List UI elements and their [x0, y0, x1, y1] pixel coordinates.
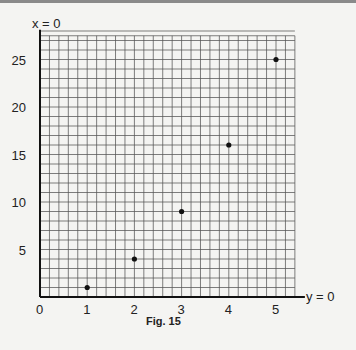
data-point: [132, 256, 137, 261]
scatter-chart: 012345510152025 x = 0 y = 0 Fig. 15: [0, 0, 356, 350]
x-tick-label: 2: [130, 302, 137, 317]
y-tick-label: 10: [12, 195, 26, 210]
data-point: [179, 209, 184, 214]
x-tick-label: 4: [225, 302, 232, 317]
y-tick-label: 15: [12, 148, 26, 163]
x-tick-label: 1: [83, 302, 90, 317]
figure-caption: Fig. 15: [146, 315, 181, 327]
tick-labels: 012345510152025: [12, 53, 280, 318]
y-tick-label: 20: [12, 100, 26, 115]
y-tick-label: 5: [19, 243, 26, 258]
x-axis-label: y = 0: [306, 289, 335, 304]
y-axis-label: x = 0: [32, 16, 61, 31]
data-point: [273, 57, 278, 62]
x-tick-label: 0: [36, 302, 43, 317]
data-point: [85, 285, 90, 290]
grid-lines: [40, 31, 295, 297]
x-tick-label: 5: [272, 302, 279, 317]
y-tick-label: 25: [12, 53, 26, 68]
data-point: [226, 142, 231, 147]
